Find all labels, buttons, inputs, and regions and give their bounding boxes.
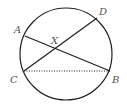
label-b: B bbox=[111, 74, 119, 85]
label-x: X bbox=[50, 35, 59, 46]
label-d: D bbox=[98, 6, 107, 17]
label-c: C bbox=[10, 74, 18, 85]
chord-ab bbox=[25, 36, 110, 71]
circle-diagram: A B C D X bbox=[0, 0, 127, 108]
circle bbox=[20, 8, 112, 100]
chord-cd bbox=[24, 18, 97, 71]
label-a: A bbox=[13, 24, 21, 35]
